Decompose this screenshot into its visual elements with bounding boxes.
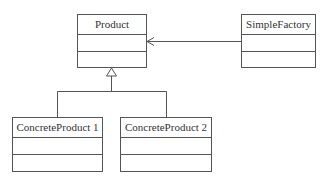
class-concrete-product-2[interactable]: ConcreteProduct 2 [120, 117, 212, 172]
class-name: SimpleFactory [242, 15, 315, 35]
class-attributes [121, 138, 211, 155]
class-name: Product [78, 15, 146, 35]
generalization-triangle-icon [107, 68, 117, 76]
class-operations [121, 155, 211, 170]
class-name: ConcreteProduct 2 [121, 118, 211, 138]
class-simple-factory[interactable]: SimpleFactory [241, 14, 316, 68]
class-name: ConcreteProduct 1 [13, 118, 102, 138]
class-concrete-product-1[interactable]: ConcreteProduct 1 [12, 117, 103, 172]
class-attributes [13, 138, 102, 155]
class-operations [242, 52, 315, 67]
class-product[interactable]: Product [77, 14, 147, 68]
class-operations [78, 52, 146, 67]
uml-diagram: Product SimpleFactory ConcreteProduct 1 … [0, 0, 323, 183]
class-attributes [242, 35, 315, 52]
class-operations [13, 155, 102, 170]
class-attributes [78, 35, 146, 52]
